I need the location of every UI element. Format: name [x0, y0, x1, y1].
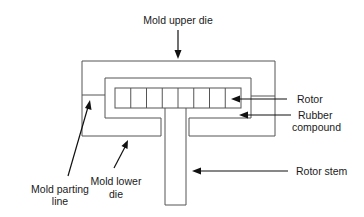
cavity-outline-left-lower — [105, 95, 161, 118]
arrow-lower-die — [114, 140, 128, 168]
arrow-rotor-stem — [192, 168, 288, 175]
label-lower-die-line1: Mold lower — [91, 175, 142, 187]
label-rubber-line1: Rubber — [298, 109, 333, 121]
label-parting-line1: Mold parting — [31, 183, 89, 195]
arrow-rubber-compound — [239, 112, 291, 119]
mold-diagram: Mold upper die Rotor Rubber compound Mol… — [0, 0, 364, 217]
arrow-rotor — [231, 96, 287, 103]
rotor-segment-dividers — [131, 88, 226, 108]
lower-die-left — [82, 118, 161, 136]
arrow-parting-line — [68, 100, 92, 176]
label-rotor: Rotor — [297, 93, 323, 105]
label-rotor-stem: Rotor stem — [296, 165, 348, 177]
label-rubber-line2: compound — [292, 121, 341, 133]
rotor-stem — [165, 108, 186, 205]
lower-die-right — [189, 118, 275, 136]
label-parting-line2: line — [52, 195, 69, 207]
label-mold-upper-die: Mold upper die — [143, 14, 213, 26]
label-lower-die-line2: die — [109, 188, 123, 200]
arrow-upper-die — [175, 30, 182, 59]
